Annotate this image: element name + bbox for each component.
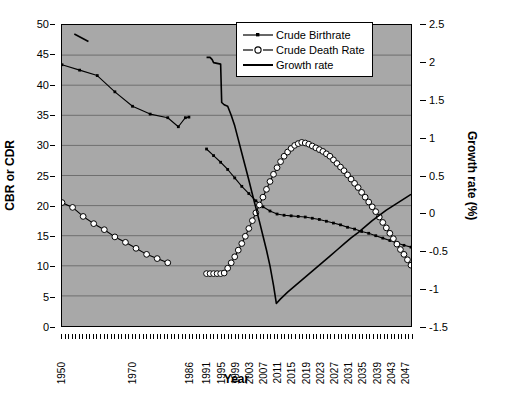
- x-axis-tick-mark: [263, 334, 264, 339]
- legend-key-crude-birthrate: [242, 29, 274, 41]
- x-axis-tick-mark: [334, 334, 335, 339]
- x-axis-tick-mark: [167, 334, 168, 339]
- x-axis-tick-mark: [160, 334, 161, 339]
- x-axis-tick-mark: [330, 334, 331, 339]
- x-axis-tick-mark: [345, 334, 346, 339]
- x-axis-tick-mark: [366, 334, 367, 339]
- x-axis-tick-mark: [341, 334, 342, 339]
- y-axis-left-tick-mark: [50, 115, 55, 116]
- x-axis-tick-mark: [291, 334, 292, 339]
- legend-item-growth-rate: Growth rate: [242, 57, 365, 72]
- x-axis-tick-mark: [238, 334, 239, 339]
- x-axis-tick-mark: [352, 334, 353, 339]
- x-axis-tick-mark: [139, 334, 140, 339]
- x-axis-tick-mark: [359, 334, 360, 339]
- x-axis-tick-mark: [369, 334, 370, 339]
- x-axis-tick-mark: [270, 334, 271, 339]
- x-axis-tick-mark: [65, 334, 66, 339]
- x-axis-tick-mark: [323, 334, 324, 339]
- x-axis-tick-mark: [277, 334, 278, 339]
- x-axis-tick-mark: [174, 334, 175, 339]
- x-axis-tick-mark: [217, 334, 218, 339]
- x-axis-tick-mark: [338, 334, 339, 339]
- x-axis-tick-mark: [171, 334, 172, 339]
- x-axis-tick-mark: [189, 334, 190, 339]
- x-axis-tick-mark: [408, 334, 409, 339]
- y-axis-left-tick-mark: [50, 176, 55, 177]
- x-axis-tick-mark: [380, 334, 381, 339]
- x-axis-tick-mark: [252, 334, 253, 339]
- x-axis-tick-mark: [150, 334, 151, 339]
- x-axis-tick-mark: [93, 334, 94, 339]
- legend: Crude Birthrate Crude Death Rate Growth …: [236, 22, 373, 77]
- x-axis-tick-mark: [288, 334, 289, 339]
- x-axis-tick-mark: [61, 334, 62, 339]
- x-axis-tick-mark: [398, 334, 399, 339]
- x-axis-tick-mark: [316, 334, 317, 339]
- y-axis-left-tick-mark: [50, 266, 55, 267]
- x-axis-tick-mark: [320, 334, 321, 339]
- x-axis-tick-mark: [114, 334, 115, 339]
- x-axis-tick-mark: [104, 334, 105, 339]
- x-axis-tick-mark: [394, 334, 395, 339]
- x-axis-tick-mark: [146, 334, 147, 339]
- x-axis-tick-mark: [72, 334, 73, 339]
- y-axis-left-tick-mark: [50, 206, 55, 207]
- x-axis-tick-mark: [412, 334, 413, 339]
- y-axis-left-tick-mark: [50, 54, 55, 55]
- x-axis-tick-mark: [405, 334, 406, 339]
- legend-label-crude-death-rate: Crude Death Rate: [274, 44, 365, 56]
- y-axis-right-tick-mark: [420, 213, 426, 214]
- y-axis-left-tick-mark: [50, 24, 55, 25]
- x-axis-tick-mark: [384, 334, 385, 339]
- legend-key-growth-rate: [242, 59, 274, 71]
- y-axis-right-tick-mark: [420, 100, 426, 101]
- y-axis-right-tick-mark: [420, 176, 426, 177]
- x-axis-tick-mark: [206, 334, 207, 339]
- x-axis-tick-mark: [281, 334, 282, 339]
- y-axis-right-tick-mark: [420, 327, 426, 328]
- x-axis-tick-mark: [267, 334, 268, 339]
- y-axis-right-tick-mark: [420, 289, 426, 290]
- x-axis-tick-mark: [224, 334, 225, 339]
- x-axis-tick-mark: [96, 334, 97, 339]
- y-axis-left-tick-mark: [50, 85, 55, 86]
- y-axis-right-tick-labels: -1.5-1-0.500.511.522.5: [420, 24, 460, 327]
- x-axis-tick-mark: [192, 334, 193, 339]
- x-axis-tick-mark: [348, 334, 349, 339]
- x-axis-tick-mark: [302, 334, 303, 339]
- x-axis-tick-mark: [355, 334, 356, 339]
- legend-key-crude-death-rate: [242, 44, 274, 56]
- y-axis-left-tick-mark: [50, 236, 55, 237]
- x-axis-tick-mark: [235, 334, 236, 339]
- x-axis-tick-mark: [387, 334, 388, 339]
- x-axis-tick-mark: [377, 334, 378, 339]
- x-axis-tick-mark: [82, 334, 83, 339]
- x-axis-tick-mark: [143, 334, 144, 339]
- x-axis-tick-mark: [256, 334, 257, 339]
- x-axis-tick-mark: [111, 334, 112, 339]
- x-axis-tick-mark: [245, 334, 246, 339]
- chart-container: CBR or CDR 05101520253035404550 -1.5-1-0…: [0, 0, 510, 400]
- x-axis-tick-mark: [401, 334, 402, 339]
- x-axis-tick-mark: [260, 334, 261, 339]
- x-axis-tick-mark: [242, 334, 243, 339]
- x-axis-title: Year: [61, 372, 412, 386]
- y-axis-right-tick-mark: [420, 62, 426, 63]
- x-axis-tick-mark: [153, 334, 154, 339]
- y-axis-right-tick-mark: [420, 251, 426, 252]
- x-axis-tick-mark: [100, 334, 101, 339]
- x-axis-tick-mark: [89, 334, 90, 339]
- y-axis-right-tick-mark: [420, 138, 426, 139]
- x-axis-tick-mark: [178, 334, 179, 339]
- x-axis-tick-mark: [107, 334, 108, 339]
- x-axis-tick-mark: [118, 334, 119, 339]
- x-axis-tick-mark: [284, 334, 285, 339]
- legend-label-crude-birthrate: Crude Birthrate: [274, 29, 351, 41]
- x-axis-tick-mark: [309, 334, 310, 339]
- x-axis-tick-mark: [196, 334, 197, 339]
- x-axis-tick-mark: [68, 334, 69, 339]
- x-axis-tick-mark: [327, 334, 328, 339]
- x-axis-tick-mark: [249, 334, 250, 339]
- x-axis-tick-mark: [274, 334, 275, 339]
